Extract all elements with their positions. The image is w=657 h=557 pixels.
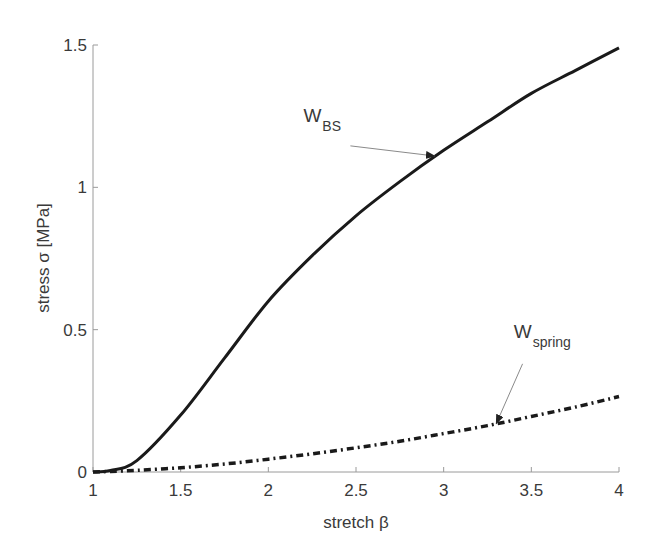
annotation-w-bs: WBS <box>303 105 341 134</box>
x-tick-label: 2 <box>264 481 273 500</box>
x-axis-label: stretch β <box>323 513 389 532</box>
y-tick-label: 1.5 <box>63 36 87 55</box>
x-tick-label: 1.5 <box>169 481 193 500</box>
y-tick-label: 0 <box>78 463 87 482</box>
curves <box>93 48 619 472</box>
axes: 11.522.533.5400.511.5 <box>63 36 623 500</box>
y-axis-label: stress σ [MPa] <box>34 203 53 313</box>
x-tick-label: 4 <box>614 481 623 500</box>
annotation-arrow <box>496 364 522 424</box>
y-tick-label: 1 <box>78 178 87 197</box>
x-tick-label: 2.5 <box>344 481 368 500</box>
curve-w-spring <box>93 397 619 472</box>
curve-w-bs <box>93 48 619 472</box>
y-tick-label: 0.5 <box>63 321 87 340</box>
annotation-arrow <box>350 146 435 156</box>
stress-stretch-chart: 11.522.533.5400.511.5 WBSWspring stretch… <box>0 0 657 557</box>
x-tick-label: 3 <box>439 481 448 500</box>
x-tick-label: 1 <box>88 481 97 500</box>
annotation-w-spring: Wspring <box>514 321 571 350</box>
annotations: WBSWspring <box>303 105 570 424</box>
x-tick-label: 3.5 <box>520 481 544 500</box>
